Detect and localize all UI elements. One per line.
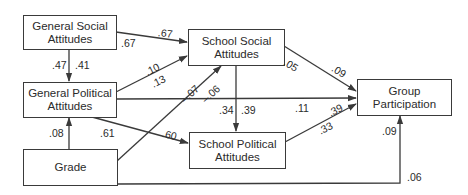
node-school-social-attitudes: School SocialAttitudes bbox=[188, 29, 285, 66]
node-school-political-attitudes: School PoliticalAttitudes bbox=[189, 132, 286, 169]
coef-gs-ss-2: .67 bbox=[121, 37, 136, 49]
node-general-political-attitudes: General PoliticalAttitudes bbox=[23, 82, 117, 118]
coef-gp-grp: .11 bbox=[295, 102, 309, 114]
node-label-line: Group bbox=[373, 85, 436, 98]
node-label-line: Attitudes bbox=[32, 33, 107, 46]
coef-grade-grp-2: .06 bbox=[407, 171, 422, 183]
coef-grade-gp: .08 bbox=[49, 127, 64, 139]
coef-ss-sp-2: .39 bbox=[241, 104, 256, 116]
node-group-participation: GroupParticipation bbox=[357, 79, 452, 116]
coef-grade-grp-1: .09 bbox=[382, 125, 397, 137]
node-label-line: Attitudes bbox=[199, 151, 277, 164]
node-general-social-attitudes: General SocialAttitudes bbox=[23, 15, 117, 50]
node-grade: Grade bbox=[23, 149, 118, 186]
node-label-line: Attitudes bbox=[202, 48, 272, 61]
coef-gs-ss-1: .67 bbox=[157, 26, 173, 40]
node-label-line: School Political bbox=[199, 138, 277, 151]
node-label-line: School Social bbox=[202, 35, 272, 48]
coef-gp-sp-1: .61 bbox=[100, 127, 115, 139]
node-label-line: Grade bbox=[55, 161, 87, 174]
coef-gs-gp-1: .47 bbox=[52, 59, 67, 71]
node-label-line: General Political bbox=[28, 87, 112, 100]
node-label-line: Participation bbox=[373, 98, 436, 111]
node-label-line: Attitudes bbox=[28, 100, 112, 113]
coef-ss-sp-1: .34 bbox=[219, 104, 234, 116]
coef-gs-gp-2: .41 bbox=[75, 59, 90, 71]
node-label-line: General Social bbox=[32, 20, 107, 33]
